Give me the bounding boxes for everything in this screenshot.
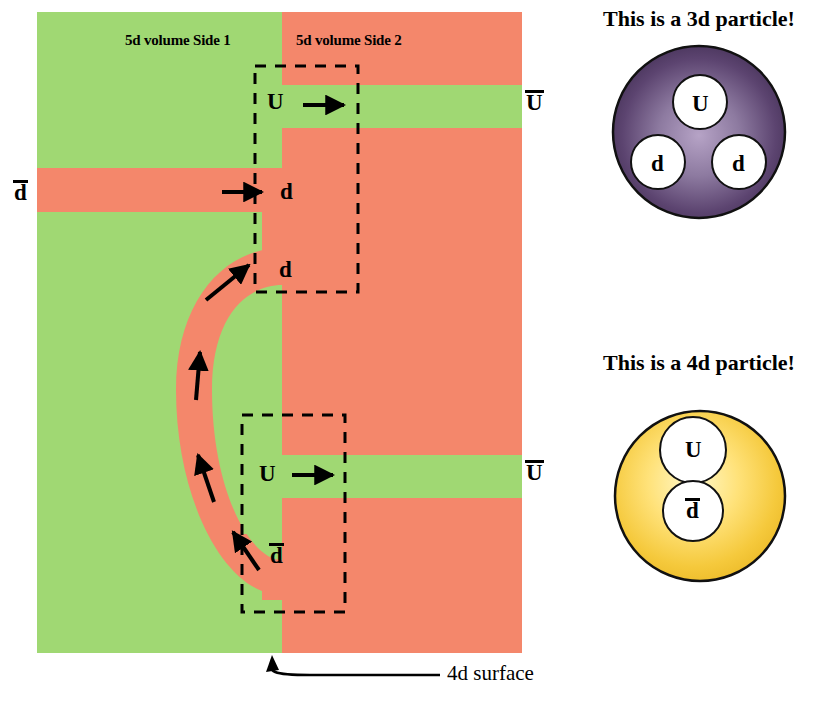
particle-3d-body [613,46,785,218]
curve-top-connector [262,205,282,253]
label-dbar-bottom: d [270,543,283,567]
particle-4d-label-u: U [685,438,702,461]
label-side2: 5d volume Side 2 [296,33,402,48]
overline-ubar-lower: U [526,460,543,484]
label-ubar-upper-outer: U [526,90,543,114]
green-step-upper [255,128,282,168]
overline-particle-4d-dbar: d [686,498,699,522]
particle-3d-label-d-right: d [732,152,745,175]
label-4d-surface: 4d surface [447,663,534,684]
label-ubar-lower-outer: U [526,460,543,484]
green-step-lower [242,498,282,534]
caption-particle-3d: This is a 3d particle! [559,8,829,30]
figure-canvas: 5d volume Side 1 5d volume Side 2 U U d … [0,0,829,720]
surface-pointer-arrowhead [266,655,279,672]
surface-pointer-line [271,660,440,675]
label-dbar-left: d [14,180,27,204]
label-u-lower-inner: U [259,462,276,485]
label-d-lower: d [279,258,292,281]
label-side1: 5d volume Side 1 [125,33,231,48]
particle-3d-label-u: U [692,92,709,115]
overline-ubar-upper: U [526,90,543,114]
particle-4d-label-dbar: d [686,498,699,522]
particle-3d-label-d-left: d [651,152,664,175]
overline-dbar-left: d [14,180,27,204]
label-u-upper-inner: U [267,90,284,113]
particle-3d-graphic [613,46,785,218]
caption-particle-4d: This is a 4d particle! [559,352,829,374]
overline-dbar-bottom: d [270,543,283,567]
label-d-upper: d [280,180,293,203]
